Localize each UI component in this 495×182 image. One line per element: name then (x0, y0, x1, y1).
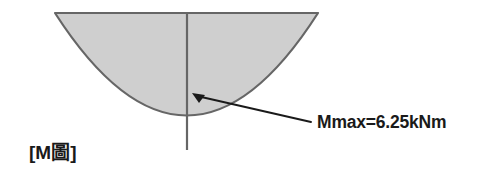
moment-diagram-figure: Mmax=6.25kNm [M圖] (0, 0, 495, 182)
mmax-annotation-label: Mmax=6.25kNm (317, 112, 446, 132)
diagram-caption-label: [M圖] (29, 142, 76, 164)
